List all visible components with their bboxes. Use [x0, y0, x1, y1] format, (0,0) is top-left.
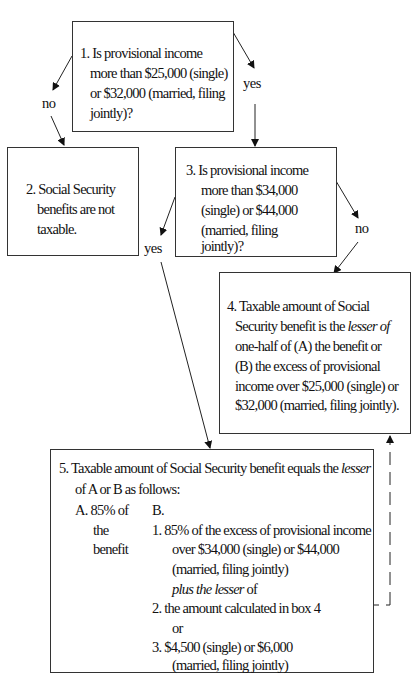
box5-b3-line-2: (married, filing jointly) — [172, 655, 288, 674]
decision-box-1: 1. Is provisional income more than $25,0… — [72, 21, 234, 132]
result-box-4: 4. Taxable amount of Social Security ben… — [219, 272, 411, 434]
box4-line-5: income over $25,000 (single) or — [235, 376, 398, 397]
edge-label-box1-no: no — [42, 95, 56, 112]
box5-colB-header: B. — [152, 500, 164, 521]
box3-line-1: 3. Is provisional income — [186, 160, 308, 181]
box5-b1-line-2: over $34,000 (single) or $44,000 — [172, 539, 339, 560]
box5-line-2: of A or B as follows: — [75, 479, 180, 500]
box5-plus-line: plus the lesser of — [172, 579, 257, 600]
box5-emphasis: lesser — [341, 460, 370, 476]
box3-line-3: (single) or $44,000 — [201, 200, 298, 221]
box5-b1-line-1: 1. 85% of the excess of provisional inco… — [152, 520, 371, 541]
box5-plus-tail: of — [244, 581, 257, 597]
box5-colA-1: A. 85% of — [75, 500, 128, 521]
edge-label-box1-yes: yes — [243, 75, 261, 92]
box4-line-2-text: Security benefit is the — [235, 318, 347, 334]
box5-colA-3: benefit — [93, 539, 128, 560]
box5-line-1: 5. Taxable amount of Social Security ben… — [59, 458, 370, 479]
box2-line-2: benefits are not — [37, 199, 114, 220]
box4-line-6: $32,000 (married, filing jointly). — [235, 395, 399, 416]
box1-line-3: or $32,000 (married, filing — [90, 83, 225, 104]
box5-plus-emphasis: plus the lesser — [172, 581, 244, 597]
result-box-5: 5. Taxable amount of Social Security ben… — [50, 449, 374, 673]
box2-line-3: taxable. — [37, 219, 77, 240]
box5-b1-line-3: (married, filing jointly) — [172, 559, 288, 580]
box4-line-3: one-half of (A) the benefit or — [235, 336, 381, 357]
result-box-2: 2. Social Security benefits are not taxa… — [7, 147, 139, 256]
box2-line-1: 2. Social Security — [26, 179, 115, 200]
box5-colA-2: the — [93, 520, 108, 541]
box5-line-1-text: 5. Taxable amount of Social Security ben… — [59, 460, 341, 476]
decision-box-3: 3. Is provisional income more than $34,0… — [175, 147, 337, 257]
box1-line-2: more than $25,000 (single) — [90, 63, 228, 84]
box4-line-4: (B) the excess of provisional — [235, 356, 380, 377]
box3-line-5: jointly)? — [201, 236, 243, 257]
box4-line-1: 4. Taxable amount of Social — [227, 296, 369, 317]
edge-label-box3-yes: yes — [144, 240, 162, 257]
box4-emphasis: lesser of — [347, 318, 389, 334]
box5-b2: 2. the amount calculated in box 4 — [152, 598, 320, 619]
box1-line-1: 1. Is provisional income — [80, 43, 202, 64]
edge-label-box3-no: no — [355, 220, 369, 237]
box1-line-4: jointly)? — [90, 103, 132, 124]
box4-line-2: Security benefit is the lesser of — [235, 316, 389, 337]
box3-line-2: more than $34,000 — [201, 180, 297, 201]
box5-or: or — [172, 618, 183, 639]
